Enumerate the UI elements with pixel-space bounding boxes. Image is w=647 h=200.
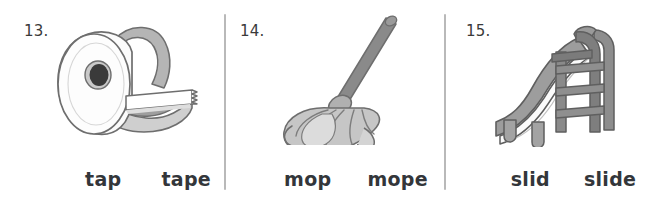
worksheet: 13.	[0, 0, 647, 200]
word-choice[interactable]: slid	[511, 168, 550, 190]
worksheet-item-14: 14.	[220, 0, 444, 200]
item-number: 13.	[24, 22, 48, 40]
word-choice[interactable]: mope	[367, 168, 428, 190]
word-choice[interactable]: slide	[584, 168, 636, 190]
word-choice[interactable]: tape	[161, 168, 211, 190]
item-number: 14.	[240, 22, 264, 40]
worksheet-item-15: 15.	[444, 0, 647, 200]
tape-dispenser-illustration	[52, 12, 202, 146]
word-choice[interactable]: mop	[284, 168, 331, 190]
slide-illustration	[482, 12, 634, 151]
mop-illustration	[268, 10, 418, 149]
panel-divider	[444, 14, 446, 190]
word-choice[interactable]: tap	[85, 168, 121, 190]
worksheet-item-13: 13.	[0, 0, 220, 200]
word-choices: slid slide	[444, 168, 647, 190]
panel-divider	[224, 14, 226, 190]
word-choices: mop mope	[220, 168, 468, 190]
